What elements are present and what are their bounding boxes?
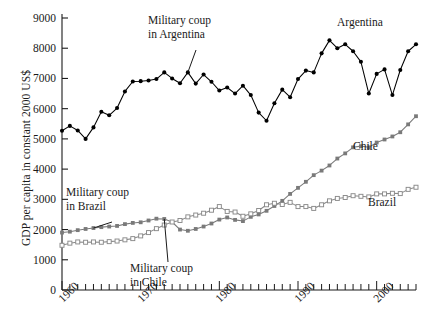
data-point-brazil [304,205,308,209]
data-point-argentina [154,77,158,81]
chart-figure: GDP per capita in constant 2000 US$ 0100… [0,0,431,336]
data-point-brazil [147,231,151,235]
y-tick-label-7000: 7000 [10,72,56,84]
data-point-brazil [115,239,119,243]
data-point-brazil [390,191,394,195]
data-point-chile [186,229,190,233]
data-point-chile [68,230,72,234]
data-point-argentina [414,42,418,46]
data-point-argentina [233,92,237,96]
data-point-chile [147,219,151,223]
data-point-chile [414,114,418,118]
annotation-coup-brazil: Military coupin Brazil [66,186,129,213]
data-point-chile [312,173,316,177]
data-point-argentina [225,85,229,89]
data-point-brazil [194,213,198,217]
data-point-chile [194,227,198,231]
data-point-brazil [359,194,363,198]
data-point-chile [115,224,119,228]
data-point-argentina [343,42,347,46]
series-label-argentina: Argentina [337,16,383,28]
data-point-chile [265,209,269,213]
data-point-brazil [225,209,229,213]
data-point-brazil [398,192,402,196]
data-point-argentina [398,68,402,72]
data-point-chile [178,228,182,232]
annotation-line-2: in Chile [130,276,193,290]
data-point-chile [139,220,143,224]
data-point-argentina [202,72,206,76]
annotation-line-2: in Argentina [148,28,211,42]
data-point-argentina [296,77,300,81]
data-point-argentina [264,119,268,123]
data-point-brazil [139,234,143,238]
data-point-argentina [107,113,111,117]
data-point-argentina [123,89,127,93]
data-point-brazil [288,200,292,204]
data-point-argentina [327,38,331,42]
data-point-argentina [146,79,150,83]
data-point-brazil [351,194,355,198]
data-point-chile [257,213,261,217]
data-point-brazil [186,215,190,219]
data-point-chile [202,225,206,229]
series-label-brazil: Brazil [368,196,396,208]
data-point-chile [406,122,410,126]
y-tick-label-0: 0 [10,284,56,296]
data-point-brazil [76,240,80,244]
y-tick-label-5000: 5000 [10,133,56,145]
series-line-chile [62,116,416,232]
data-point-argentina [241,84,245,88]
data-point-argentina [257,111,261,115]
y-tick-label-6000: 6000 [10,103,56,115]
data-point-chile [383,138,387,142]
data-point-brazil [414,185,418,189]
data-point-chile [296,186,300,190]
data-point-argentina [312,70,316,74]
data-point-brazil [343,196,347,200]
y-tick-label-4000: 4000 [10,163,56,175]
data-point-argentina [139,79,143,83]
data-point-brazil [257,209,261,213]
data-point-argentina [288,95,292,99]
annotation-line-1: Military coup [130,262,193,276]
data-point-argentina [367,92,371,96]
data-point-chile [225,216,229,220]
data-point-brazil [99,240,103,244]
annotation-line-1: Military coup [66,186,129,200]
data-point-chile [131,221,135,225]
data-point-argentina [217,88,221,92]
y-tick-label-8000: 8000 [10,42,56,54]
data-point-argentina [382,67,386,71]
data-point-argentina [84,137,88,141]
data-point-chile [343,151,347,155]
annotation-coup-argentina: Military coupin Argentina [148,14,211,41]
data-point-argentina [170,76,174,80]
data-point-brazil [327,199,331,203]
data-point-brazil [170,220,174,224]
y-tick-label-9000: 9000 [10,12,56,24]
data-point-argentina [76,128,80,132]
data-point-brazil [154,227,158,231]
data-point-brazil [272,201,276,205]
data-point-argentina [194,82,198,86]
data-point-brazil [233,210,237,214]
y-tick-label-1000: 1000 [10,254,56,266]
data-point-brazil [280,202,284,206]
y-tick-label-3000: 3000 [10,193,56,205]
data-point-brazil [209,208,213,212]
data-point-chile [398,130,402,134]
data-point-chile [76,228,80,232]
data-point-chile [84,227,88,231]
data-point-argentina [91,125,95,129]
data-point-argentina [406,49,410,53]
data-point-chile [241,219,245,223]
data-point-argentina [375,72,379,76]
data-point-argentina [390,93,394,97]
annotation-leader-coup-argentina [188,50,196,72]
data-point-brazil [178,218,182,222]
annotation-line-2: in Brazil [66,200,129,214]
data-point-argentina [99,110,103,114]
data-point-argentina [304,69,308,73]
series-line-argentina [62,40,416,139]
